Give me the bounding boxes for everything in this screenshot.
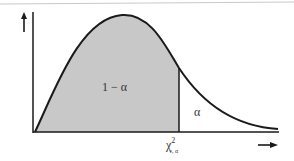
- acceptance-region: [35, 15, 179, 132]
- critical-value-label: χ2ν, α: [166, 138, 184, 153]
- critical-value-superscript: 2: [171, 136, 175, 145]
- acceptance-area-label: 1 − α: [102, 81, 127, 93]
- critical-value-subscript: ν, α: [169, 148, 178, 154]
- rejection-area-label: α: [194, 106, 200, 118]
- right-arrow-icon: [258, 142, 278, 148]
- top-border-line: [0, 2, 294, 4]
- up-arrow-icon: [21, 12, 27, 32]
- chi-squared-diagram: [0, 0, 294, 161]
